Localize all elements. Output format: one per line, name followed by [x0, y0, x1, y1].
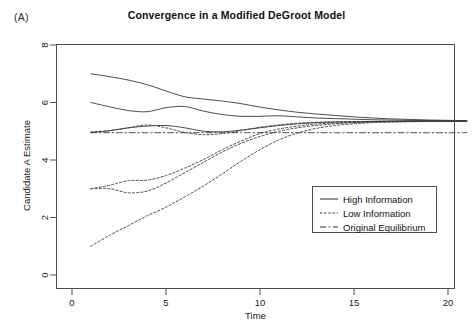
chart-title: Convergence in a Modified DeGroot Model	[0, 9, 473, 21]
legend-label: High Information	[343, 194, 413, 205]
series-line	[91, 121, 467, 193]
x-tick-label: 15	[349, 297, 360, 308]
y-tick-label: 6	[39, 100, 50, 105]
y-tick-label: 8	[39, 42, 50, 47]
y-tick-label: 0	[39, 272, 50, 277]
plot-frame	[57, 45, 455, 289]
y-tick-label: 2	[39, 215, 50, 220]
legend-label: Low Information	[343, 208, 411, 219]
series-line	[91, 103, 467, 121]
y-axis-label: Candidate A Estimate	[21, 96, 32, 236]
line-chart-plot: 0510152002468 High InformationLow Inform…	[0, 0, 473, 335]
series-line	[91, 74, 467, 121]
x-axis-label: Time	[56, 310, 455, 321]
legend-label: Original Equilibrium	[343, 222, 425, 233]
x-tick-label: 0	[69, 297, 74, 308]
x-tick-label: 5	[163, 297, 168, 308]
chart-legend: High InformationLow InformationOriginal …	[313, 187, 437, 233]
axis-ticks: 0510152002468	[39, 42, 454, 308]
x-tick-label: 10	[255, 297, 266, 308]
x-tick-label: 20	[443, 297, 454, 308]
figure-container: (A) Convergence in a Modified DeGroot Mo…	[0, 0, 473, 335]
y-tick-label: 4	[39, 157, 50, 162]
